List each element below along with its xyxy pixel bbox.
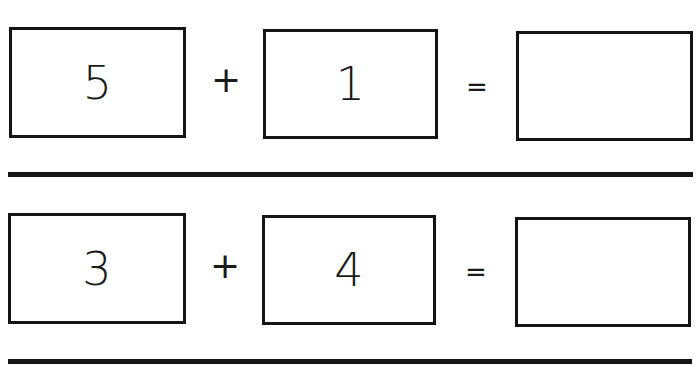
addend-box-1b: 1 [263, 29, 438, 139]
addend-value: 3 [82, 246, 111, 292]
equals-sign: = [465, 259, 487, 285]
divider-line-2 [8, 359, 692, 364]
divider-line-1 [8, 172, 693, 177]
equals-sign: = [466, 74, 488, 100]
addend-value: 5 [83, 60, 112, 106]
addend-box-1a: 5 [9, 27, 186, 138]
addend-value: 1 [336, 61, 365, 107]
addend-value: 4 [334, 247, 363, 293]
answer-box-2[interactable] [515, 217, 691, 327]
plus-sign: + [211, 62, 241, 98]
addend-box-2a: 3 [8, 213, 186, 324]
answer-box-1[interactable] [516, 31, 693, 141]
addend-box-2b: 4 [262, 215, 436, 325]
plus-sign: + [210, 248, 240, 284]
